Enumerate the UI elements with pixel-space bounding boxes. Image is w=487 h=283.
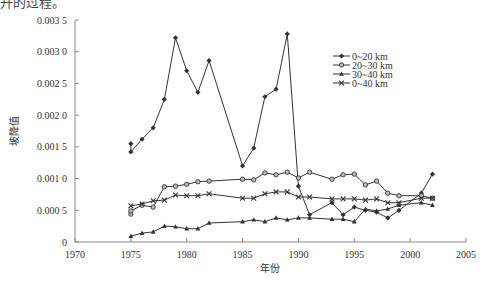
x-tick-label: 2005 [456, 249, 476, 260]
y-tick-label: 0.002 0 [37, 110, 67, 121]
triangle-marker-icon [363, 206, 368, 210]
circle-marker-icon [330, 177, 334, 181]
line-chart: 00.000 50.001 00.001 50.002 00.002 50.00… [0, 0, 487, 283]
x-tick-label: 1980 [177, 249, 197, 260]
y-tick-label: 0.000 5 [37, 205, 67, 216]
circle-marker-icon [185, 182, 189, 186]
triangle-marker-icon [419, 200, 424, 204]
y-tick-label: 0.001 0 [37, 173, 67, 184]
circle-marker-icon [307, 170, 311, 174]
circle-marker-icon [374, 179, 378, 183]
circle-marker-icon [196, 180, 200, 184]
circle-marker-icon [173, 184, 177, 188]
circle-marker-icon [263, 171, 267, 175]
diamond-marker-icon [195, 90, 200, 95]
x-tick-label: 1975 [121, 249, 141, 260]
diamond-marker-icon [128, 141, 133, 146]
circle-marker-icon [162, 185, 166, 189]
circle-marker-icon [285, 170, 289, 174]
diamond-marker-icon [339, 53, 344, 58]
y-tick-label: 0.002 5 [37, 78, 67, 89]
y-tick-label: 0.003 0 [37, 46, 67, 57]
circle-marker-icon [129, 209, 133, 213]
diamond-marker-icon [173, 35, 178, 40]
diamond-marker-icon [296, 184, 301, 189]
y-tick-label: 0 [62, 237, 67, 248]
x-tick-label: 1990 [288, 249, 308, 260]
y-axis-title: 坡降值 [8, 116, 20, 146]
diamond-marker-icon [240, 163, 245, 168]
diamond-marker-icon [184, 68, 189, 73]
circle-marker-icon [151, 205, 155, 209]
diamond-marker-icon [162, 97, 167, 102]
circle-marker-icon [296, 176, 300, 180]
x-tick-label: 1985 [233, 249, 253, 260]
diamond-marker-icon [251, 146, 256, 151]
x-tick-label: 1995 [344, 249, 364, 260]
circle-marker-icon [397, 193, 401, 197]
diamond-marker-icon [285, 31, 290, 36]
y-tick-label: 0.003 5 [37, 15, 67, 26]
circle-marker-icon [252, 178, 256, 182]
diamond-marker-icon [430, 172, 435, 177]
diamond-marker-icon [273, 87, 278, 92]
circle-marker-icon [339, 63, 343, 67]
legend-label: 0~40 km [352, 78, 388, 89]
circle-marker-icon [386, 191, 390, 195]
legend-item: 0~40 km [333, 78, 388, 89]
x-axis-title: 年份 [260, 262, 280, 274]
triangle-marker-icon [274, 215, 279, 219]
circle-marker-icon [352, 172, 356, 176]
circle-marker-icon [274, 173, 278, 177]
circle-marker-icon [207, 179, 211, 183]
triangle-marker-icon [251, 217, 256, 221]
circle-marker-icon [363, 183, 367, 187]
circle-marker-icon [240, 177, 244, 181]
y-tick-label: 0.001 5 [37, 141, 67, 152]
legend: 0~20 km20~30 km30~40 km0~40 km [333, 51, 393, 89]
x-tick-label: 1970 [65, 249, 85, 260]
circle-marker-icon [341, 173, 345, 177]
diamond-marker-icon [206, 58, 211, 63]
x-tick-label: 2000 [400, 249, 420, 260]
